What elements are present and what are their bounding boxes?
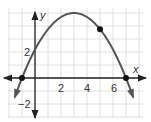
parabola-chart: y x 2 4 6 2 −2 [0, 0, 151, 122]
x-axis-label: x [132, 63, 139, 75]
tick-y-2: 2 [24, 46, 30, 58]
y-axis-up-arrow-icon [32, 11, 39, 20]
tick-y-neg2: −2 [18, 98, 31, 110]
x-axis-left-arrow-icon [3, 75, 12, 82]
data-point [19, 75, 25, 81]
curve-right-arrow-icon [127, 88, 134, 99]
data-point [97, 26, 103, 32]
y-axis-label: y [39, 9, 47, 21]
data-point [123, 75, 129, 81]
tick-x-2: 2 [58, 82, 64, 94]
y-axis-down-arrow-icon [32, 110, 39, 119]
tick-x-4: 4 [84, 82, 90, 94]
x-axis-right-arrow-icon [138, 75, 147, 82]
tick-x-6: 6 [111, 82, 117, 94]
